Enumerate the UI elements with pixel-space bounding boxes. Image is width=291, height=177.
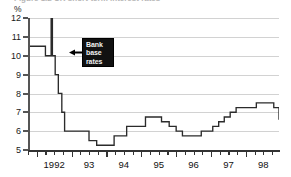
x-tick-minor-1994.75	[133, 151, 134, 155]
x-tick-minor-1994.25	[115, 151, 116, 155]
y-tick-label-8: 8	[16, 89, 21, 99]
x-tick-major-1996.00	[176, 151, 177, 157]
bank-base-rates-callout: Bank base rates	[82, 38, 114, 67]
x-tick-major-1997.00	[211, 151, 212, 157]
x-tick-label-1992: 1992	[44, 159, 65, 170]
x-tick-major-1994.00	[106, 151, 107, 157]
callout-line-3: rates	[86, 58, 111, 66]
x-tick-minor-1995.50	[159, 151, 160, 155]
x-tick-minor-1998.25	[255, 151, 256, 155]
figure-caption: Figure 1.2 UK short-term interest rates	[14, 0, 284, 3]
callout-arrow-icon	[69, 49, 83, 56]
y-tick-label-11: 11	[12, 32, 21, 42]
x-tick-minor-1997.50	[228, 151, 229, 155]
x-tick-minor-1993.25	[80, 151, 81, 155]
x-tick-minor-1992.25	[45, 151, 46, 155]
x-tick-label-97: 97	[223, 159, 234, 170]
x-tick-major-1995.00	[141, 151, 142, 157]
x-tick-minor-1996.75	[202, 151, 203, 155]
y-tick-label-10: 10	[11, 51, 21, 61]
x-tick-major-1992.00	[37, 151, 38, 157]
series-step-line	[28, 18, 279, 145]
x-tick-major-1993.00	[72, 151, 73, 157]
x-tick-minor-1997.75	[237, 151, 238, 155]
x-tick-minor-1993.50	[89, 151, 90, 155]
x-tick-minor-1991.75	[28, 151, 29, 155]
x-tick-minor-1992.75	[63, 151, 64, 155]
y-tick-label-9: 9	[16, 70, 21, 80]
x-tick-label-93: 93	[84, 159, 95, 170]
y-tick-label-5: 5	[16, 145, 21, 155]
x-tick-minor-1996.25	[185, 151, 186, 155]
x-tick-minor-1997.25	[220, 151, 221, 155]
x-tick-minor-1996.50	[194, 151, 195, 155]
y-tick-label-6: 6	[16, 126, 21, 136]
plot-area: 12 11 10 9 8 7 6 5	[28, 18, 279, 150]
x-tick-minor-1992.50	[54, 151, 55, 155]
y-axis-line	[28, 18, 30, 151]
y-tick-label-12: 12	[11, 13, 21, 23]
x-tick-minor-1994.50	[124, 151, 125, 155]
x-tick-minor-1995.25	[150, 151, 151, 155]
x-tick-label-94: 94	[119, 159, 130, 170]
x-tick-minor-1998.75	[272, 151, 273, 155]
x-tick-label-96: 96	[188, 159, 199, 170]
x-tick-minor-1993.75	[98, 151, 99, 155]
x-tick-minor-1995.75	[167, 151, 168, 155]
figure-uk-interest-rates: Figure 1.2 UK short-term interest rates …	[0, 0, 291, 177]
x-tick-minor-1998.50	[263, 151, 264, 155]
x-tick-label-98: 98	[258, 159, 269, 170]
x-axis: 1992939495969798	[28, 151, 280, 177]
callout-line-1: Bank	[86, 41, 111, 49]
callout-line-2: base	[86, 49, 111, 57]
x-tick-major-1998.00	[246, 151, 247, 157]
y-tick-label-7: 7	[16, 107, 21, 117]
x-tick-label-95: 95	[153, 159, 164, 170]
data-series-bank-base-rates	[28, 18, 279, 150]
